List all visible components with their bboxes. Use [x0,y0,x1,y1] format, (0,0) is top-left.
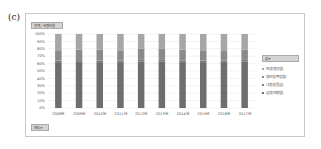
x-tick-label: 2011년 [114,111,126,116]
bar-segment[interactable] [221,62,228,108]
bar-segment[interactable] [138,60,145,61]
x-tick-label: 2016년 [218,111,230,116]
bar-segment[interactable] [138,34,145,49]
legend-filter-button[interactable]: 값 ▾ [262,55,299,62]
bar-segment[interactable] [200,34,207,50]
bar-segment[interactable] [179,34,186,50]
y-tick-label: 40% [37,77,46,81]
y-axis-ticks: 0%10%20%30%40%50%60%70%80%90%100% [35,32,46,110]
bar-segment[interactable] [241,34,248,50]
bar-segment[interactable] [55,62,62,108]
y-tick-label: 10% [37,99,46,103]
bar-segment[interactable] [76,60,83,61]
bar-segment[interactable] [241,50,248,60]
bar-segment[interactable] [200,50,207,60]
y-tick-label: 0% [39,106,45,110]
bar-segment[interactable] [179,62,186,108]
x-axis-ticks: 2008년2009년2010년2011년2012년2013년2014년2015년… [52,111,250,116]
x-tick-label: 2014년 [176,111,188,116]
y-tick-label: 100% [35,32,46,36]
y-tick-label: 90% [37,40,46,44]
legend-item[interactable]: 낙동강(물금) [262,81,299,89]
legend-item[interactable]: 한강(팔당댐) [262,65,299,73]
y-tick-label: 20% [37,91,46,95]
legend-swatch [262,76,264,78]
bar-segment[interactable] [76,34,83,50]
bar-segment[interactable] [221,51,228,61]
legend: 값 ▾ 한강(팔당댐)영산강(주암댐)낙동강(물금)금강(대청댐) [262,55,299,97]
legend-label: 한강(팔당댐) [266,67,284,71]
bar-segment[interactable] [241,60,248,61]
bar-segment[interactable] [97,50,104,61]
bar-segment[interactable] [117,50,124,60]
bar-segment[interactable] [221,34,228,51]
y-tick-label: 80% [37,47,46,51]
x-tick-label: 2010년 [94,111,106,116]
bar-segment[interactable] [159,60,166,61]
x-tick-label: 2017년 [239,111,251,116]
bar-segment[interactable] [55,34,62,51]
y-tick-label: 70% [37,54,46,58]
bar-segment[interactable] [55,51,62,61]
bar-segment[interactable] [200,62,207,108]
bar-segment[interactable] [221,61,228,62]
x-tick-label: 2009년 [73,111,85,116]
bar-segment[interactable] [97,61,104,62]
legend-label: 낙동강(물금) [266,83,284,87]
y-tick-label: 60% [37,62,46,66]
bar-segment[interactable] [97,62,104,108]
legend-label: 영산강(주암댐) [266,75,287,79]
legend-label: 금강(대청댐) [266,91,284,95]
bar-segment[interactable] [117,62,124,108]
legend-swatch [262,68,264,70]
y-tick-label: 30% [37,84,46,88]
bar-segment[interactable] [179,50,186,61]
x-tick-label: 2008년 [52,111,64,116]
bar-segment[interactable] [159,61,166,108]
bar-segment[interactable] [179,61,186,62]
bar-segment[interactable] [117,61,124,62]
y-tick-label: 50% [37,69,46,73]
bar-segment[interactable] [138,61,145,108]
bar-segment[interactable] [241,61,248,108]
x-tick-label: 2015년 [197,111,209,116]
legend-swatch [262,92,264,94]
bar-segment[interactable] [159,34,166,49]
x-tick-label: 2012년 [135,111,147,116]
bar-segment[interactable] [138,49,145,60]
bar-segment[interactable] [76,61,83,108]
bar-segment[interactable] [159,49,166,60]
bar-segment[interactable] [76,50,83,60]
legend-item[interactable]: 영산강(주암댐) [262,73,299,81]
bar-segment[interactable] [55,61,62,62]
x-tick-label: 2013년 [156,111,168,116]
legend-swatch [262,84,264,86]
year-field-button[interactable]: 연도 ▾ [31,124,49,131]
bar-segment[interactable] [117,34,124,50]
bar-segment[interactable] [97,34,104,50]
legend-item[interactable]: 금강(대청댐) [262,89,299,97]
bar-segment[interactable] [200,61,207,62]
